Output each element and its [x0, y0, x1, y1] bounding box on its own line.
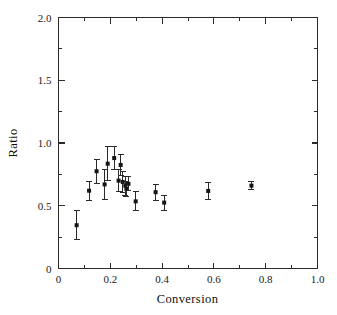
plot-frame	[59, 18, 318, 269]
data-point	[248, 182, 254, 190]
data-points-layer	[74, 147, 255, 240]
y-tick-label: 0	[46, 263, 52, 275]
x-tick-label: 0.4	[155, 273, 169, 285]
x-axis-tick-labels: 00.20.40.60.81.0	[56, 273, 325, 285]
data-point	[133, 192, 139, 211]
x-tick-label: 0.8	[259, 273, 273, 285]
x-axis-ticks	[59, 18, 318, 269]
data-point	[94, 159, 100, 183]
data-point	[102, 169, 108, 199]
data-point	[74, 211, 80, 240]
data-point	[205, 183, 211, 199]
x-axis-title: Conversion	[157, 292, 219, 306]
y-axis-title: Ratio	[6, 128, 20, 157]
data-point-marker	[106, 162, 110, 166]
data-point-marker	[75, 223, 79, 227]
data-point-marker	[117, 179, 121, 183]
data-point	[153, 184, 159, 200]
y-tick-label: 2.0	[38, 12, 52, 24]
y-tick-label: 1.5	[38, 74, 52, 86]
scatter-plot-figure: 00.20.40.60.81.0 00.51.01.52.0 Conversio…	[0, 0, 337, 315]
data-point-marker	[112, 156, 116, 160]
data-point	[111, 147, 117, 170]
data-point-marker	[162, 201, 166, 205]
data-point-marker	[87, 189, 91, 193]
y-axis-ticks	[59, 18, 318, 269]
data-point	[161, 195, 167, 210]
data-point-marker	[154, 190, 158, 194]
x-tick-label: 0.2	[103, 273, 117, 285]
y-axis-tick-labels: 00.51.01.52.0	[38, 12, 52, 275]
data-point	[86, 181, 92, 200]
data-point-marker	[119, 163, 123, 167]
plot-canvas: 00.20.40.60.81.0 00.51.01.52.0 Conversio…	[0, 0, 337, 315]
x-tick-label: 0	[56, 273, 62, 285]
y-tick-label: 0.5	[38, 200, 52, 212]
data-point-marker	[206, 189, 210, 193]
x-tick-label: 0.6	[207, 273, 221, 285]
data-point-marker	[126, 182, 130, 186]
data-point	[105, 147, 111, 181]
data-point-marker	[103, 182, 107, 186]
data-point-marker	[95, 169, 99, 173]
data-point-marker	[121, 180, 125, 184]
y-tick-label: 1.0	[38, 137, 52, 149]
data-point-marker	[249, 184, 253, 188]
x-tick-label: 1.0	[311, 273, 325, 285]
plot-frame-rect	[59, 18, 318, 269]
data-point-marker	[134, 199, 138, 203]
